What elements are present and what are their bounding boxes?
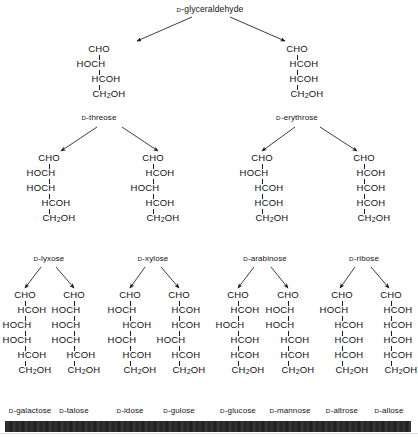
struct-row: CHO <box>10 153 88 168</box>
arrow-erythrose-ribose <box>320 127 357 151</box>
struct-row: HOCH <box>60 59 138 74</box>
group-hoch: HOCH <box>52 335 81 345</box>
struct-row: CHO <box>257 290 319 305</box>
struct-row: HCOH <box>10 198 88 213</box>
struct-row: CHO <box>60 44 138 59</box>
group-hcoh: HCOH <box>146 168 175 178</box>
group-hoch: HOCH <box>266 320 295 330</box>
label-d-ribose: D-ribose <box>325 254 403 263</box>
group-ch2oh: CH2OH <box>358 213 391 223</box>
group-hcoh: HCOH <box>290 74 319 84</box>
group-cho: CHO <box>119 290 141 300</box>
group-hoch: HOCH <box>27 168 56 178</box>
group-hcoh: HCOH <box>172 320 201 330</box>
struct-row: HOCH <box>10 168 88 183</box>
label-text: -talose <box>64 406 89 415</box>
group-hoch: HOCH <box>320 305 349 315</box>
struct-row: HCOH <box>360 320 418 335</box>
group-hcoh: HCOH <box>42 198 71 208</box>
struct-row: HOCH <box>223 168 301 183</box>
arrow-lyxose-talose <box>56 267 74 288</box>
group-hoch: HOCH <box>3 320 32 330</box>
struct-row: HCOH <box>223 183 301 198</box>
label-d-xylose: D-xylose <box>114 254 192 263</box>
group-cho: CHO <box>251 153 273 163</box>
group-ch2oh: CH2OH <box>291 89 324 99</box>
struct-row: CHO <box>360 290 418 305</box>
group-hoch: HOCH <box>27 183 56 193</box>
struct-row: HCOH <box>360 335 418 350</box>
struct-row: CHO <box>114 153 192 168</box>
label-d-arabinose: D-arabinose <box>223 254 307 263</box>
struct-row: HCOH <box>325 183 403 198</box>
group-hoch: HOCH <box>3 335 32 345</box>
group-hoch: HOCH <box>131 183 160 193</box>
struct-row: CHO <box>325 153 403 168</box>
structure-d-gulose: CHO HCOH HCOH HOCH HCOH CH2OH <box>148 290 210 380</box>
struct-row: HCOH <box>325 198 403 213</box>
label-text: -arabinose <box>248 254 287 263</box>
group-cho: CHO <box>227 290 249 300</box>
struct-row: HOCH <box>43 335 105 350</box>
group-hcoh: HCOH <box>384 305 413 315</box>
structure-d-arabinose: CHO HOCH HCOH HCOH CH2OH <box>223 153 301 228</box>
group-hcoh: HCOH <box>146 198 175 208</box>
group-cho: CHO <box>353 153 375 163</box>
label-text: -ribose <box>354 254 379 263</box>
label-text: -glucose <box>225 406 256 415</box>
arrow-glyceraldehyde-erythrose <box>230 17 285 41</box>
page-edge-line <box>0 433 418 434</box>
group-hcoh: HCOH <box>357 198 386 208</box>
label-text: -altrose <box>331 406 358 415</box>
struct-row: HCOH <box>43 350 105 365</box>
aldose-family-tree-diagram: D-glyceraldehyde CHO HOCH HCOH CH2OH D-t… <box>0 0 418 437</box>
struct-row: HOCH <box>43 305 105 320</box>
label-text: -mannose <box>274 406 310 415</box>
group-cho: CHO <box>286 44 308 54</box>
group-hoch: HOCH <box>216 320 245 330</box>
group-hcoh: HCOH <box>384 320 413 330</box>
group-hcoh: HCOH <box>231 335 260 345</box>
group-hcoh: HCOH <box>255 198 284 208</box>
struct-row: CH2OH <box>148 365 210 380</box>
group-hcoh: HCOH <box>281 335 310 345</box>
group-hcoh: HCOH <box>357 183 386 193</box>
struct-row: HCOH <box>258 59 336 74</box>
structure-d-xylose: CHO HCOH HOCH HCOH CH2OH <box>114 153 192 228</box>
group-hoch: HOCH <box>108 305 137 315</box>
struct-row: HCOH <box>60 74 138 89</box>
struct-row: HCOH <box>325 168 403 183</box>
struct-row: CH2OH <box>257 365 319 380</box>
label-d-erythrose: D-erythrose <box>258 113 336 122</box>
label-text: -threose <box>86 113 116 122</box>
arrow-xylose-gulose <box>161 267 179 288</box>
struct-row: HOCH <box>114 183 192 198</box>
group-hoch: HOCH <box>240 168 269 178</box>
arrow-arabinose-glucose <box>238 267 254 288</box>
arrow-glyceraldehyde-threose <box>137 17 192 41</box>
struct-row: HCOH <box>148 305 210 320</box>
arrow-arabinose-mannose <box>271 267 288 288</box>
group-cho: CHO <box>88 44 110 54</box>
group-hoch: HOCH <box>108 335 137 345</box>
struct-row: HCOH <box>114 198 192 213</box>
group-ch2oh: CH2OH <box>43 213 76 223</box>
structure-d-mannose: CHO HOCH HOCH HCOH HCOH CH2OH <box>257 290 319 380</box>
struct-row: HCOH <box>223 198 301 213</box>
group-hcoh: HCOH <box>357 168 386 178</box>
group-cho: CHO <box>168 290 190 300</box>
arrow-erythrose-arabinose <box>262 127 295 151</box>
group-hcoh: HCOH <box>281 350 310 360</box>
group-hcoh: HCOH <box>231 350 260 360</box>
struct-row: CH2OH <box>223 213 301 228</box>
struct-row: CH2OH <box>60 89 138 104</box>
struct-row: CHO <box>258 44 336 59</box>
label-d-gulose: D-gulose <box>148 406 210 415</box>
group-hoch: HOCH <box>157 335 186 345</box>
struct-row: HCOH <box>360 305 418 320</box>
struct-row: CHO <box>43 290 105 305</box>
group-cho: CHO <box>331 290 353 300</box>
group-hcoh: HCOH <box>172 305 201 315</box>
group-cho: CHO <box>63 290 85 300</box>
group-cho: CHO <box>142 153 164 163</box>
